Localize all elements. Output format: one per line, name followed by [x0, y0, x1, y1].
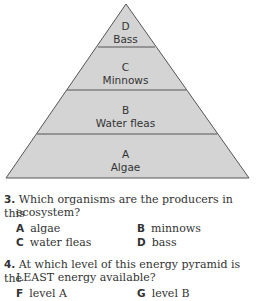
option-3a[interactable]: Aalgae [16, 221, 60, 236]
level-d-name: Bass [0, 33, 251, 46]
question-3-number: 3. [4, 193, 15, 205]
level-c-name: Minnows [0, 74, 251, 87]
level-b-name: Water fleas [0, 117, 251, 130]
option-3d[interactable]: Dbass [137, 235, 177, 250]
question-4-text-line2: LEAST energy available? [16, 271, 261, 285]
level-b: B Water fleas [0, 104, 251, 130]
level-a-name: Algae [0, 161, 251, 174]
level-a-letter: A [0, 148, 251, 161]
option-3b[interactable]: Bminnows [137, 221, 201, 236]
level-a: A Algae [0, 148, 251, 174]
level-d-letter: D [0, 20, 251, 33]
level-c: C Minnows [0, 61, 251, 87]
option-4g[interactable]: Glevel B [137, 286, 189, 301]
level-d: D Bass [0, 20, 251, 46]
question-3-text-line2: ecosystem? [16, 206, 261, 220]
question-4-number: 4. [4, 258, 15, 270]
level-c-letter: C [0, 61, 251, 74]
option-4f[interactable]: Flevel A [16, 286, 67, 301]
level-b-letter: B [0, 104, 251, 117]
option-3c[interactable]: Cwater fleas [16, 235, 91, 250]
